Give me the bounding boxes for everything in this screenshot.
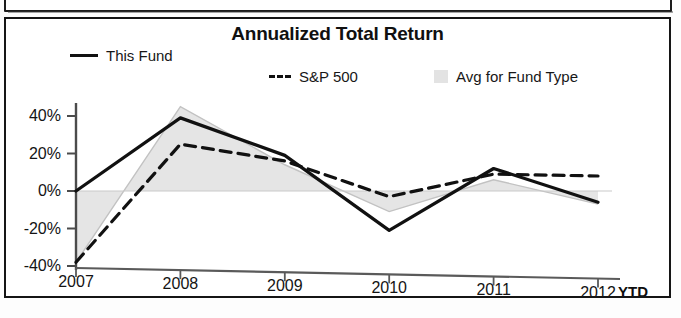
x-axis-tick-label: 2009: [267, 277, 303, 295]
x-axis-tick-label: 2010: [371, 279, 407, 297]
y-axis-tick-label: -40%: [24, 257, 61, 275]
x-axis-tick-label: 2011: [476, 281, 510, 298]
x-axis-tick-label: 2007: [58, 273, 94, 291]
screenshot-root: Annualized Total Return This Fund S&P 50…: [0, 0, 681, 318]
y-axis-tick-label: 40%: [29, 107, 61, 125]
x-axis-tick-label: 2012: [580, 284, 616, 298]
clipped-panel-above: [4, 0, 672, 12]
y-axis-tick-label: 20%: [29, 145, 61, 163]
plot-geometry: [67, 103, 620, 288]
x-axis-ytd-note: YTD: [618, 283, 648, 298]
y-axis-tick-label: -20%: [24, 220, 61, 238]
y-axis-tick-label: 0%: [38, 182, 61, 200]
chart-panel: Annualized Total Return This Fund S&P 50…: [4, 17, 671, 298]
x-axis-tick-label: 2008: [163, 275, 199, 293]
y-axis-labels: 40%20%0%-20%-40%: [6, 19, 61, 298]
x-axis-line: [76, 268, 620, 279]
chart-plot: [6, 19, 671, 298]
area-fill-avg-for-fund-type: [76, 107, 598, 263]
